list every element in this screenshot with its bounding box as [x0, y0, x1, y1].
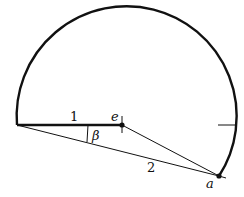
label-segment-2: 2	[147, 160, 155, 175]
label-point-e: e	[111, 109, 119, 124]
angle-beta-arc	[87, 125, 88, 142]
label-segment-1: 1	[70, 109, 78, 124]
label-angle-beta: β	[91, 128, 100, 143]
outer-arc	[17, 6, 237, 176]
segment-e-a	[122, 125, 219, 176]
label-point-a: a	[206, 176, 214, 191]
chord-segment-2	[17, 125, 219, 176]
geometry-diagram: 1 β e 2 a	[0, 0, 244, 197]
